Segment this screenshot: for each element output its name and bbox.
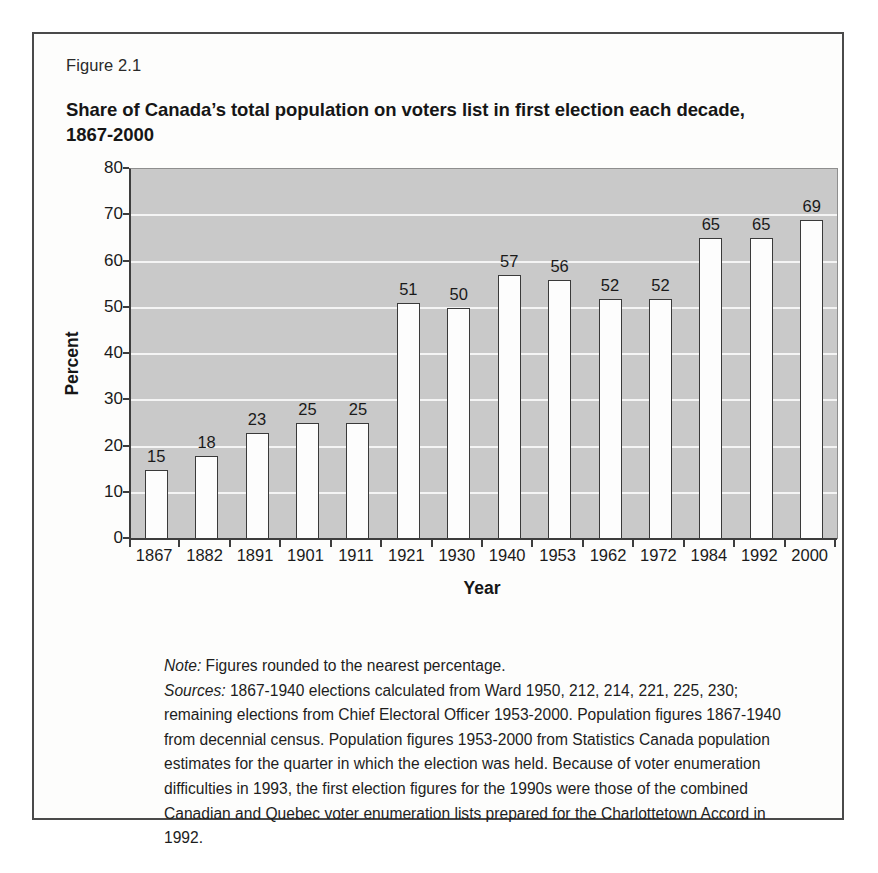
bar-value-label: 69 [803,197,821,216]
x-axis-tick-label: 1940 [482,546,532,565]
bar-value-label: 50 [450,285,468,304]
bar-value-label: 18 [197,433,215,452]
bar-value-label: 56 [550,257,568,276]
bar-value-label: 57 [500,252,518,271]
bar-value-label: 65 [752,215,770,234]
bar[interactable] [246,433,269,539]
bar[interactable] [346,423,369,539]
x-axis-tick-label: 1962 [583,546,633,565]
bar-group[interactable]: 56 [534,169,584,539]
x-axis-tick-label: 1984 [684,546,734,565]
x-axis-tick-label: 1930 [432,546,482,565]
bar-value-label: 25 [349,400,367,419]
note-lead: Note: [164,657,201,674]
x-axis-tick-label: 1867 [129,546,179,565]
bar[interactable] [447,308,470,539]
bar[interactable] [699,238,722,539]
x-axis-tick-label: 1891 [230,546,280,565]
note-line: Note: Figures rounded to the nearest per… [164,654,804,679]
bar-value-label: 25 [298,400,316,419]
bar-value-label: 52 [651,276,669,295]
sources-lead: Sources: [164,682,226,699]
figure-notes: Note: Figures rounded to the nearest per… [164,654,804,851]
x-axis-tick-labels: 1867188218911901191119211930194019531962… [129,546,835,565]
bar-value-label: 52 [601,276,619,295]
bar[interactable] [145,470,168,539]
plot-area: 1518232525515057565252656569 [129,168,838,539]
figure-frame: Figure 2.1 Share of Canada’s total popul… [32,32,844,820]
bar-chart: Percent 01020304050607080 15182325255150… [34,160,842,630]
bar-group[interactable]: 25 [333,169,383,539]
bar-group[interactable]: 65 [686,169,736,539]
bar-group[interactable]: 15 [131,169,181,539]
figure-title: Share of Canada’s total population on vo… [66,97,766,147]
x-axis-title: Year [129,578,835,599]
note-text: Figures rounded to the nearest percentag… [201,657,505,674]
x-axis-tick-label: 2000 [784,546,834,565]
y-axis-tick-marks [34,168,134,538]
bar[interactable] [195,456,218,539]
x-axis-tick-label: 1911 [331,546,381,565]
x-axis-tick-label: 1972 [633,546,683,565]
bar-group[interactable]: 52 [585,169,635,539]
bar-group[interactable]: 25 [282,169,332,539]
bar[interactable] [498,275,521,539]
x-axis-tick-label: 1953 [532,546,582,565]
x-axis-tick-label: 1921 [381,546,431,565]
bar-group[interactable]: 69 [786,169,836,539]
bar[interactable] [599,299,622,540]
x-axis-tick-label: 1901 [280,546,330,565]
bar-group[interactable]: 52 [635,169,685,539]
bar[interactable] [649,299,672,540]
sources-line: Sources: 1867-1940 elections calculated … [164,679,804,851]
plot-inner: 1518232525515057565252656569 [131,169,837,539]
bar-group[interactable]: 57 [484,169,534,539]
bar[interactable] [750,238,773,539]
bar[interactable] [397,303,420,539]
x-axis-tick-label: 1882 [179,546,229,565]
bar[interactable] [296,423,319,539]
x-axis-tick-label: 1992 [734,546,784,565]
bar-value-label: 65 [702,215,720,234]
bar[interactable] [800,220,823,539]
bars-layer: 1518232525515057565252656569 [131,169,837,539]
sources-text: 1867-1940 elections calculated from Ward… [164,682,781,847]
figure-number: Figure 2.1 [66,56,141,75]
bar-value-label: 51 [399,280,417,299]
bar-group[interactable]: 50 [434,169,484,539]
bar-group[interactable]: 51 [383,169,433,539]
bar-value-label: 23 [248,410,266,429]
bar-group[interactable]: 65 [736,169,786,539]
bar-group[interactable]: 23 [232,169,282,539]
bar-value-label: 15 [147,447,165,466]
bar[interactable] [548,280,571,539]
bar-group[interactable]: 18 [181,169,231,539]
